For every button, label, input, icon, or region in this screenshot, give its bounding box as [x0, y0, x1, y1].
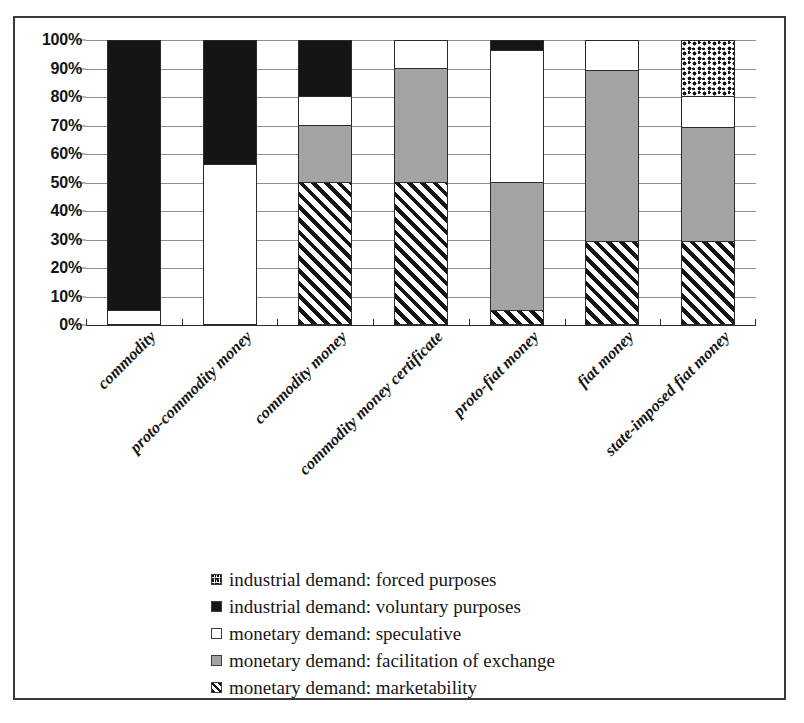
y-axis-tick-label: 20% [51, 259, 82, 277]
bar-stack[interactable] [203, 40, 257, 325]
chart-figure-frame: 0%10%20%30%40%50%60%70%80%90%100% commod… [13, 16, 786, 700]
y-axis-tick-label: 30% [51, 231, 82, 249]
plot-area: 0%10%20%30%40%50%60%70%80%90%100% [86, 40, 756, 325]
bar-segment-white[interactable] [394, 40, 448, 69]
bar-segment-dots[interactable] [681, 40, 735, 97]
y-axis-tick-label: 80% [51, 88, 82, 106]
legend-swatch-hatch [211, 682, 222, 693]
y-axis-tick-label: 100% [42, 31, 82, 49]
bar-segment-white[interactable] [203, 165, 257, 325]
bar-segment-gray[interactable] [394, 69, 448, 183]
y-axis-tick-label: 10% [51, 288, 82, 306]
x-axis-category-labels: commodityproto-commodity moneycommodity … [86, 325, 756, 515]
bar-segment-gray[interactable] [681, 128, 735, 242]
bar-segment-gray[interactable] [490, 183, 544, 311]
legend-item[interactable]: industrial demand: forced purposes [211, 566, 631, 593]
bar-segment-black[interactable] [107, 40, 161, 311]
bar-segment-hatch[interactable] [298, 183, 352, 326]
legend-item[interactable]: monetary demand: speculative [211, 620, 631, 647]
bar-stack[interactable] [394, 40, 448, 325]
y-axis-tick-label: 60% [51, 145, 82, 163]
bar-segment-black[interactable] [298, 40, 352, 97]
x-axis-category-label: proto-fiat money [449, 327, 543, 421]
bar-stack[interactable] [298, 40, 352, 325]
y-axis-tick-label: 40% [51, 202, 82, 220]
legend-swatch-white [211, 628, 222, 639]
x-axis-category-label: fiat money [574, 327, 639, 392]
legend-label: industrial demand: voluntary purposes [229, 596, 521, 618]
bar-segment-hatch[interactable] [490, 311, 544, 325]
legend-swatch-black [211, 601, 222, 612]
legend-swatch-gray [211, 655, 222, 666]
bar-segment-black[interactable] [490, 40, 544, 51]
legend-label: monetary demand: speculative [229, 623, 461, 645]
legend-item[interactable]: monetary demand: facilitation of exchang… [211, 647, 631, 674]
bar-segment-white[interactable] [681, 97, 735, 128]
bar-segment-white[interactable] [585, 40, 639, 71]
legend-swatch-dots [211, 574, 222, 585]
bar-segment-white[interactable] [107, 311, 161, 325]
bar-segment-white[interactable] [298, 97, 352, 126]
legend-label: industrial demand: forced purposes [229, 569, 497, 591]
y-axis-tick-label: 70% [51, 117, 82, 135]
bar-segment-gray[interactable] [298, 126, 352, 183]
bar-stack[interactable] [681, 40, 735, 325]
bar-stack[interactable] [490, 40, 544, 325]
bar-segment-gray[interactable] [585, 71, 639, 242]
bar-segment-black[interactable] [203, 40, 257, 165]
y-axis-tick-label: 0% [59, 316, 82, 334]
bar-segment-hatch[interactable] [681, 242, 735, 325]
legend-label: monetary demand: facilitation of exchang… [229, 650, 555, 672]
bar-stack[interactable] [107, 40, 161, 325]
x-axis-category-label: commodity [93, 327, 160, 394]
legend-label: monetary demand: marketability [229, 677, 477, 699]
y-axis-tick-label: 50% [51, 174, 82, 192]
legend-item[interactable]: monetary demand: marketability [211, 674, 631, 701]
y-axis-tick-label: 90% [51, 60, 82, 78]
legend-item[interactable]: industrial demand: voluntary purposes [211, 593, 631, 620]
bar-segment-white[interactable] [490, 51, 544, 182]
chart-legend: industrial demand: forced purposesindust… [211, 566, 631, 701]
x-axis-category-label: commodity money [250, 327, 351, 428]
bar-stack[interactable] [585, 40, 639, 325]
plot-inner: 0%10%20%30%40%50%60%70%80%90%100% [86, 40, 756, 325]
bar-segment-hatch[interactable] [585, 242, 639, 325]
bar-segment-hatch[interactable] [394, 183, 448, 326]
